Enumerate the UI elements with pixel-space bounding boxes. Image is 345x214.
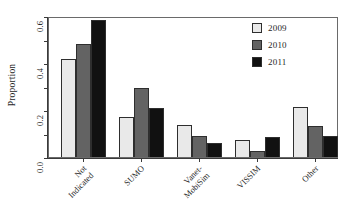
x-tick-mark bbox=[315, 158, 316, 162]
bar-chart-figure: Proportion 0.00.20.40.6 Not IndicatedSUM… bbox=[0, 0, 345, 214]
bar bbox=[91, 20, 106, 157]
x-tick-mark bbox=[141, 158, 142, 162]
y-axis-title-text: Proportion bbox=[7, 64, 17, 107]
legend-label: 2011 bbox=[268, 57, 286, 67]
y-tick-label: 0.2 bbox=[35, 115, 45, 126]
x-tick-label: Not Indicated bbox=[59, 164, 95, 200]
y-tick-label: 0.0 bbox=[35, 162, 45, 173]
bar-group bbox=[61, 18, 106, 157]
bar bbox=[308, 126, 323, 157]
x-axis-line bbox=[48, 158, 338, 159]
legend-item: 2010 bbox=[252, 39, 287, 50]
bar bbox=[235, 140, 250, 157]
legend-swatch bbox=[252, 23, 262, 33]
bar-groups bbox=[49, 18, 337, 157]
x-tick-label: SUMO bbox=[122, 164, 146, 188]
bar bbox=[207, 143, 222, 157]
bar bbox=[192, 136, 207, 157]
y-axis: 0.00.20.40.6 bbox=[22, 10, 48, 162]
x-tick-label: Other bbox=[300, 164, 320, 184]
legend-label: 2010 bbox=[268, 40, 287, 50]
y-tick-label: 0.4 bbox=[35, 68, 45, 79]
plot-area bbox=[48, 17, 338, 158]
x-tick-mark bbox=[83, 158, 84, 162]
x-tick-label: VISSIM bbox=[235, 164, 262, 191]
bar-group bbox=[177, 18, 222, 157]
bar bbox=[119, 117, 134, 157]
bar bbox=[265, 137, 280, 157]
legend-label: 2009 bbox=[268, 23, 287, 33]
x-tick-mark bbox=[257, 158, 258, 162]
legend-swatch bbox=[252, 40, 262, 50]
legend-item: 2011 bbox=[252, 56, 287, 67]
bar bbox=[61, 59, 76, 157]
bar bbox=[177, 125, 192, 157]
x-tick-label: Vanet- MobiSim bbox=[175, 164, 211, 200]
bar bbox=[149, 108, 164, 157]
legend-swatch bbox=[252, 57, 262, 67]
x-tick-mark bbox=[199, 158, 200, 162]
bar-group bbox=[293, 18, 338, 157]
legend: 200920102011 bbox=[252, 22, 287, 67]
bar-group bbox=[119, 18, 164, 157]
bar bbox=[76, 44, 91, 157]
y-axis-title: Proportion bbox=[2, 0, 22, 170]
bar bbox=[323, 136, 338, 157]
y-tick-label: 0.6 bbox=[35, 21, 45, 32]
bar bbox=[293, 107, 308, 157]
bar bbox=[134, 88, 149, 157]
legend-item: 2009 bbox=[252, 22, 287, 33]
bar bbox=[250, 151, 265, 157]
